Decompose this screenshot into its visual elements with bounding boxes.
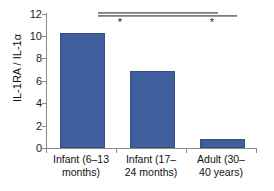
x-category-label-0-line1: Infant (6–13	[53, 153, 109, 165]
y-tick-label-10: 10	[8, 31, 42, 41]
x-category-label-1: Infant (17– 24 months)	[116, 153, 186, 179]
y-tick-2: 2	[0, 121, 42, 131]
x-category-label-0: Infant (6–13 months)	[46, 153, 116, 179]
y-tick-label-4: 4	[8, 98, 42, 108]
x-category-label-0-line2: months)	[46, 166, 116, 179]
x-axis-line	[45, 148, 256, 149]
y-tick-label-8: 8	[8, 53, 42, 63]
x-category-label-2-line1: Adult (30–	[197, 153, 245, 165]
plot-area	[46, 14, 256, 148]
bar-adult-30-40-years[interactable]	[200, 139, 245, 148]
x-category-label-1-line1: Infant (17–	[126, 153, 176, 165]
y-axis-title: IL-1RA / IL-1α	[11, 6, 23, 130]
x-category-label-1-line2: 24 months)	[116, 166, 186, 179]
y-tick-8: 8	[0, 53, 42, 63]
y-tick-label-12: 12	[8, 9, 42, 19]
x-category-label-2-line2: 40 years)	[186, 166, 256, 179]
y-tick-10: 10	[0, 31, 42, 41]
x-tick-mark-end	[256, 148, 257, 153]
x-category-label-2: Adult (30– 40 years)	[186, 153, 256, 179]
y-tick-0: 0	[0, 143, 42, 153]
significance-asterisk-1: *	[115, 18, 125, 26]
y-tick-label-2: 2	[8, 121, 42, 131]
bar-chart-figure: IL-1RA / IL-1α 12 10 8 6 4 2 0 Infant	[0, 0, 274, 191]
y-tick-label-6: 6	[8, 76, 42, 86]
y-tick-label-0: 0	[8, 143, 42, 153]
significance-bar-2	[98, 15, 237, 17]
bar-infant-6-13-months[interactable]	[60, 33, 105, 148]
significance-asterisk-2: *	[207, 18, 217, 26]
bar-infant-17-24-months[interactable]	[130, 71, 175, 148]
significance-bar-1	[98, 12, 218, 14]
y-tick-12: 12	[0, 9, 42, 19]
y-tick-4: 4	[0, 98, 42, 108]
y-tick-6: 6	[0, 76, 42, 86]
